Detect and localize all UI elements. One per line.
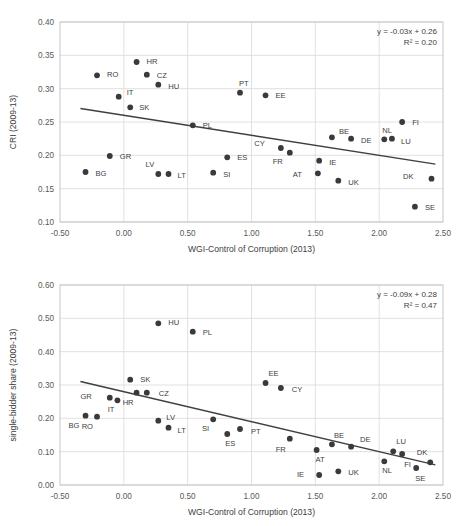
point-label-ee: EE bbox=[276, 91, 286, 100]
y-tick-label: 0.60 bbox=[38, 281, 54, 290]
x-tick-label: 0.50 bbox=[180, 492, 196, 501]
data-point-hr bbox=[134, 390, 140, 396]
point-label-fr: FR bbox=[276, 445, 287, 454]
data-point-uk bbox=[335, 178, 341, 184]
y-tick-label: 0.20 bbox=[38, 414, 54, 423]
point-label-sk: SK bbox=[140, 375, 150, 384]
y-tick-label: 0.10 bbox=[38, 448, 54, 457]
data-point-hr bbox=[134, 59, 140, 65]
x-tick-label: 0.00 bbox=[116, 492, 132, 501]
data-point-at bbox=[314, 447, 320, 453]
point-label-es: ES bbox=[237, 153, 247, 162]
data-point-sk bbox=[127, 377, 133, 383]
r-squared-value: R² = 0.20 bbox=[404, 38, 438, 47]
x-tick-label: 2.00 bbox=[371, 492, 387, 501]
point-label-lv: LV bbox=[166, 413, 176, 422]
data-point-dk bbox=[429, 176, 435, 182]
point-label-pt: PT bbox=[251, 427, 261, 436]
data-point-ie bbox=[316, 472, 322, 478]
point-label-ie: IE bbox=[329, 158, 336, 167]
point-label-sk: SK bbox=[139, 103, 149, 112]
point-label-dk: DK bbox=[417, 448, 428, 457]
r-squared-value: R² = 0.47 bbox=[404, 301, 438, 310]
point-label-se: SE bbox=[425, 203, 435, 212]
regression-equation: y = -0.03x + 0.26 bbox=[377, 27, 438, 36]
point-label-be: BE bbox=[334, 431, 344, 440]
point-label-hr: HR bbox=[123, 398, 134, 407]
x-axis-title: WGI-Control of Corruption (2013) bbox=[188, 244, 315, 254]
point-label-se: SE bbox=[415, 474, 425, 483]
point-label-hu: HU bbox=[168, 318, 179, 327]
point-label-it: IT bbox=[108, 405, 115, 414]
point-label-cz: CZ bbox=[157, 71, 167, 80]
point-label-lu: LU bbox=[396, 437, 406, 446]
data-point-hu bbox=[155, 82, 161, 88]
data-point-fr bbox=[287, 150, 293, 156]
data-point-bg bbox=[83, 169, 89, 175]
point-label-es: ES bbox=[225, 439, 235, 448]
data-point-ee bbox=[263, 92, 269, 98]
y-tick-label: 0.35 bbox=[38, 51, 54, 60]
data-point-fi bbox=[399, 451, 405, 457]
point-label-lt: LT bbox=[178, 171, 187, 180]
y-tick-label: 0.50 bbox=[38, 314, 54, 323]
y-tick-label: 0.30 bbox=[38, 85, 54, 94]
data-point-fi bbox=[399, 119, 405, 125]
data-point-hu bbox=[155, 320, 161, 326]
data-point-cz bbox=[144, 390, 150, 396]
x-tick-label: 2.50 bbox=[435, 492, 451, 501]
y-axis-title: CRI (2009-13) bbox=[8, 95, 18, 150]
point-label-nl: NL bbox=[382, 126, 392, 135]
point-label-nl: NL bbox=[382, 466, 392, 475]
data-point-dk bbox=[427, 459, 433, 465]
point-label-it: IT bbox=[127, 88, 134, 97]
point-label-fi: FI bbox=[412, 118, 419, 127]
y-tick-label: 0.30 bbox=[38, 381, 54, 390]
point-label-uk: UK bbox=[348, 468, 359, 477]
chart-cri-vs-corruption: 0.100.150.200.250.300.350.40-0.500.000.5… bbox=[0, 0, 461, 263]
data-point-ie bbox=[316, 158, 322, 164]
point-label-be: BE bbox=[339, 127, 349, 136]
point-label-fr: FR bbox=[273, 157, 284, 166]
point-label-pl: PL bbox=[203, 328, 212, 337]
point-label-lv: LV bbox=[146, 160, 156, 169]
data-point-pl bbox=[190, 329, 196, 335]
x-tick-label: 0.00 bbox=[116, 229, 132, 238]
data-point-nl bbox=[381, 136, 387, 142]
x-tick-label: 1.50 bbox=[307, 492, 323, 501]
point-label-ro: RO bbox=[82, 422, 93, 431]
data-point-fr bbox=[287, 436, 293, 442]
data-point-cz bbox=[144, 72, 150, 78]
data-point-de bbox=[348, 444, 354, 450]
point-label-hr: HR bbox=[147, 57, 158, 66]
data-point-lv bbox=[155, 418, 161, 424]
x-tick-label: 2.00 bbox=[371, 229, 387, 238]
point-label-si: SI bbox=[223, 170, 230, 179]
cri-scatter-svg: 0.100.150.200.250.300.350.40-0.500.000.5… bbox=[0, 0, 461, 263]
y-tick-label: 0.40 bbox=[38, 18, 54, 27]
chart-single-bidder-vs-corruption: 0.000.100.200.300.400.500.60-0.500.000.5… bbox=[0, 263, 461, 526]
point-label-fi: FI bbox=[404, 460, 411, 469]
data-point-bg bbox=[83, 413, 89, 419]
data-point-sk bbox=[127, 104, 133, 110]
data-point-pt bbox=[237, 426, 243, 432]
point-label-bg: BG bbox=[96, 169, 107, 178]
data-point-si bbox=[210, 170, 216, 176]
data-point-at bbox=[315, 170, 321, 176]
point-label-si: SI bbox=[202, 424, 209, 433]
data-point-pt bbox=[237, 90, 243, 96]
data-point-cy bbox=[278, 145, 284, 151]
x-tick-label: -0.50 bbox=[51, 492, 70, 501]
data-point-se bbox=[413, 465, 419, 471]
data-point-si bbox=[210, 416, 216, 422]
data-point-be bbox=[329, 134, 335, 140]
y-tick-label: 0.20 bbox=[38, 151, 54, 160]
x-tick-label: 1.00 bbox=[244, 229, 260, 238]
data-point-de bbox=[348, 136, 354, 142]
x-tick-label: 0.50 bbox=[180, 229, 196, 238]
data-point-lv bbox=[155, 171, 161, 177]
data-point-es bbox=[224, 431, 230, 437]
y-tick-label: 0.10 bbox=[38, 218, 54, 227]
data-point-be bbox=[329, 441, 335, 447]
x-tick-label: 2.50 bbox=[435, 229, 451, 238]
